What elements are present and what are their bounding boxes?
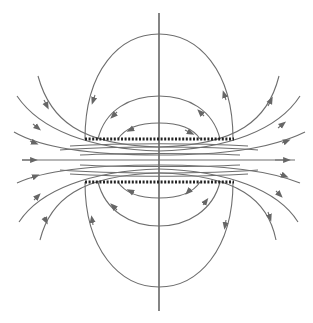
field-line-diagram (0, 0, 313, 323)
